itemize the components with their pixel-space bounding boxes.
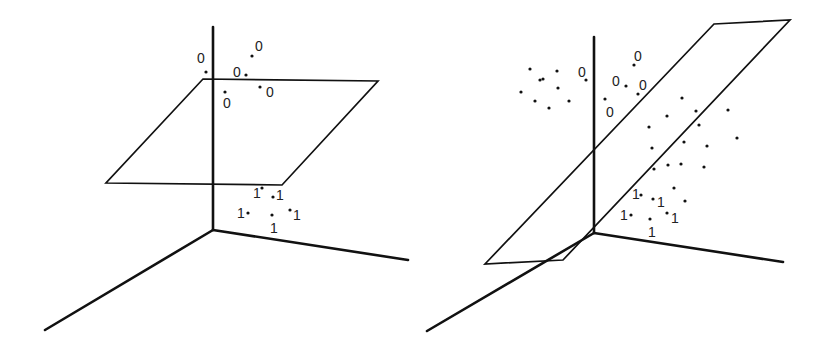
class-1-point [629,213,632,216]
class-0-point [204,70,207,73]
class-label: 1 [620,207,628,223]
class-label: 1 [293,207,301,223]
class-0-point [624,84,627,87]
class-1-point [651,197,654,200]
unlabeled-point [650,146,653,149]
unlabeled-point [682,140,685,143]
class-1-point [246,211,249,214]
unlabeled-point [666,163,669,166]
class-1-point [639,193,642,196]
class-label: 0 [606,104,614,120]
class-label: 0 [233,64,241,80]
unlabeled-point [705,144,708,147]
unlabeled-point [726,108,729,111]
decision-plane [106,79,378,185]
unlabeled-point [694,109,697,112]
class-label: 0 [578,64,586,80]
unlabeled-point [556,86,559,89]
class-0-point [258,85,261,88]
unlabeled-point [538,78,541,81]
class-label: 1 [648,224,656,240]
class-label: 1 [671,210,679,226]
class-0-point [223,90,226,93]
unlabeled-point [567,99,570,102]
unlabeled-point [702,165,705,168]
class-0-point [244,73,247,76]
class-1-point [271,195,274,198]
unlabeled-point [735,136,738,139]
class-1-point [288,208,291,211]
class-1-point [665,211,668,214]
unlabeled-point [533,99,536,102]
y-axis [594,233,783,262]
left-panel-horizontal-plane: 0000011111 [45,27,408,330]
class-label: 0 [223,95,231,111]
class-0-point [603,97,606,100]
class-label: 0 [255,38,263,54]
unlabeled-point [519,90,522,93]
unlabeled-point [652,167,655,170]
unlabeled-point [679,162,682,165]
class-label: 0 [197,50,205,66]
unlabeled-point [665,114,668,117]
unlabeled-point [697,123,700,126]
unlabeled-point [547,106,550,109]
class-label: 0 [639,77,647,93]
unlabeled-point [683,199,686,202]
separating-plane-diagram: 0000011111 0000011111 [0,0,833,349]
unlabeled-point [555,69,558,72]
class-label: 1 [270,220,278,236]
class-label: 0 [612,73,620,89]
class-0-point [250,54,253,57]
unlabeled-point [647,125,650,128]
class-label: 0 [266,84,274,100]
x-axis [427,233,594,331]
unlabeled-point [528,67,531,70]
diagram-canvas: 0000011111 0000011111 [0,0,833,349]
y-axis [213,230,408,260]
class-label: 1 [276,187,284,203]
unlabeled-point [680,96,683,99]
class-label: 1 [237,205,245,221]
class-label: 1 [632,186,640,202]
right-panel-tilted-plane: 0000011111 [427,20,790,331]
class-label: 1 [253,185,261,201]
x-axis [45,230,213,330]
class-1-point [260,186,263,189]
class-1-point [270,213,273,216]
class-label: 0 [634,48,642,64]
class-label: 1 [657,194,665,210]
class-1-point [648,217,651,220]
unlabeled-point [672,186,675,189]
unlabeled-point [541,77,544,80]
